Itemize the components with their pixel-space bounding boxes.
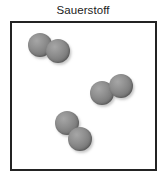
atom-sphere — [46, 39, 70, 63]
molecule-layer — [12, 23, 159, 173]
atom-sphere — [68, 127, 92, 151]
oxygen-particle-diagram: Sauerstoff — [0, 0, 166, 178]
page-title: Sauerstoff — [0, 3, 166, 17]
particle-container-box — [10, 21, 157, 171]
atom-sphere — [109, 74, 133, 98]
